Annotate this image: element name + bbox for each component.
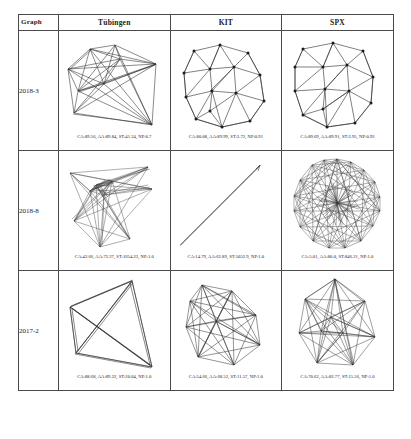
metrics-caption: CA:14.79, AA:62.89, ST:5052.9, NP:1.0: [188, 254, 265, 260]
row-label-2018-3: 2018-3: [19, 31, 59, 151]
metrics-caption: CA:5.01, AA:80.0, ST:846.21, NP:1.0: [302, 254, 374, 260]
metrics-caption: CA:42.66, AA:72.27, ST:1654.23, NP:1.0: [75, 254, 154, 260]
metrics-caption: CA:89.69, AA:89.91, ST:2.95, NP:0.92: [300, 134, 374, 140]
graph-comparison-table: Graph Tübingen KIT SPX 2018-3: [18, 14, 394, 391]
metrics-caption: CA:89.56, AA:89.84, ST:41.24, NP:0.7: [77, 134, 151, 140]
graph-cell-tuebingen-2018-8: CA:42.66, AA:72.27, ST:1654.23, NP:1.0: [59, 151, 171, 271]
graph-drawing-kit-2017-2: [172, 271, 280, 375]
graph-cell-spx-2017-2: CA:70.63, AA:82.77, ST:15.56, NP:1.0: [282, 271, 394, 391]
header-column-kit: KIT: [170, 15, 282, 31]
table-header: Graph Tübingen KIT SPX: [19, 15, 394, 31]
graph-cell-tuebingen-2018-3: CA:89.56, AA:89.84, ST:41.24, NP:0.7: [59, 31, 171, 151]
header-graph-label: Graph: [19, 15, 59, 31]
graph-cell-kit-2017-2: CA:54.66, AA:68.52, ST:11.57, NP:1.0: [170, 271, 282, 391]
metrics-caption: CA:54.66, AA:68.52, ST:11.57, NP:1.0: [189, 374, 263, 380]
graph-drawing-spx-2018-8: [283, 151, 391, 255]
table-row: 2017-2: [19, 271, 394, 391]
graph-drawing-tuebingen-2017-2: [60, 271, 168, 375]
metrics-caption: CA:80.08, AA:89.99, ST:3.72, NP:0.91: [189, 134, 263, 140]
header-column-spx: SPX: [282, 15, 394, 31]
table-row: 2018-8: [19, 151, 394, 271]
figure-sheet: Graph Tübingen KIT SPX 2018-3: [0, 0, 411, 439]
graph-drawing-kit-2018-8: [172, 151, 280, 255]
graph-cell-kit-2018-8: CA:14.79, AA:62.89, ST:5052.9, NP:1.0: [170, 151, 282, 271]
table-body: 2018-3: [19, 31, 394, 391]
metrics-caption: CA:70.63, AA:82.77, ST:15.56, NP:1.0: [300, 374, 374, 380]
graph-drawing-spx-2018-3: [283, 31, 391, 135]
header-row: Graph Tübingen KIT SPX: [19, 15, 394, 31]
graph-drawing-tuebingen-2018-3: [60, 31, 168, 135]
graph-drawing-kit-2018-3: [172, 31, 280, 135]
table-row: 2018-3: [19, 31, 394, 151]
graph-drawing-spx-2017-2: [283, 271, 391, 375]
metrics-caption: CA:88.68, AA:89.22, ST:20.04, NP:1.0: [77, 374, 151, 380]
header-column-tuebingen: Tübingen: [59, 15, 171, 31]
graph-drawing-tuebingen-2018-8: [60, 151, 168, 255]
row-label-2018-8: 2018-8: [19, 151, 59, 271]
graph-cell-kit-2018-3: CA:80.08, AA:89.99, ST:3.72, NP:0.91: [170, 31, 282, 151]
graph-cell-tuebingen-2017-2: CA:88.68, AA:89.22, ST:20.04, NP:1.0: [59, 271, 171, 391]
row-label-2017-2: 2017-2: [19, 271, 59, 391]
graph-cell-spx-2018-3: CA:89.69, AA:89.91, ST:2.95, NP:0.92: [282, 31, 394, 151]
graph-cell-spx-2018-8: CA:5.01, AA:80.0, ST:846.21, NP:1.0: [282, 151, 394, 271]
